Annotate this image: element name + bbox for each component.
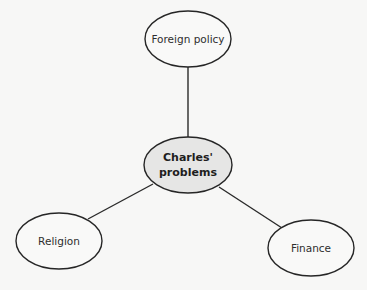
central-node-label-line-1: Charles' <box>163 151 213 164</box>
mind-map-diagram: Foreign policy Religion Finance Charles'… <box>0 0 367 290</box>
node-religion: Religion <box>16 213 102 269</box>
node-finance-label: Finance <box>291 242 331 254</box>
node-finance: Finance <box>268 220 354 276</box>
diagram-canvas: Foreign policy Religion Finance Charles'… <box>0 0 367 290</box>
central-node-ellipse <box>144 137 232 193</box>
edge-religion <box>88 184 153 219</box>
node-foreign-policy: Foreign policy <box>145 11 231 67</box>
central-node-charles-problems: Charles' problems <box>144 137 232 193</box>
central-node-label-line-2: problems <box>159 166 217 179</box>
node-religion-label: Religion <box>38 235 80 247</box>
node-foreign-policy-label: Foreign policy <box>151 33 224 45</box>
edge-finance <box>219 187 282 228</box>
